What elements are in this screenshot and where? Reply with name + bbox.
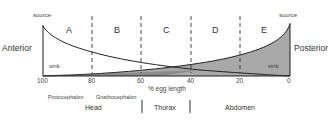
posterior-label: Posterior bbox=[294, 43, 328, 53]
subregion-protocephalon: Protocephalon bbox=[48, 94, 83, 100]
subregion-gnathocephalon: Gnathocephalon bbox=[96, 94, 136, 100]
sink-label-left: sink bbox=[49, 63, 60, 69]
tick-0: 0 bbox=[287, 77, 291, 84]
tick-80: 80 bbox=[88, 77, 95, 84]
region-a: A bbox=[66, 25, 72, 35]
segment-head: Head bbox=[85, 104, 102, 111]
source-label-right: source bbox=[279, 12, 297, 18]
region-c: C bbox=[163, 25, 170, 35]
segment-thorax: Thorax bbox=[154, 104, 176, 111]
x-axis-label: % egg length bbox=[148, 85, 186, 92]
region-d: D bbox=[212, 25, 219, 35]
tick-20: 20 bbox=[236, 77, 243, 84]
sink-label-right: sink bbox=[268, 63, 279, 69]
region-e: E bbox=[261, 25, 267, 35]
region-b: B bbox=[114, 25, 120, 35]
tick-60: 60 bbox=[137, 77, 144, 84]
tick-100: 100 bbox=[37, 77, 48, 84]
source-label-left: source bbox=[33, 12, 51, 18]
anterior-label: Anterior bbox=[2, 43, 32, 53]
segment-abdomen: Abdomen bbox=[225, 104, 255, 111]
gradient-diagram bbox=[0, 0, 334, 120]
tick-40: 40 bbox=[187, 77, 194, 84]
